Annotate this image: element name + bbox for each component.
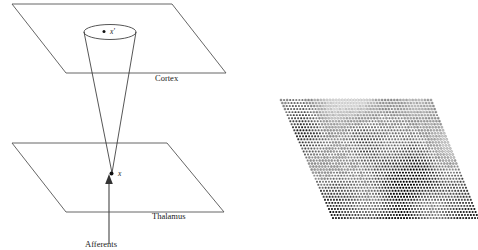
map-dot (308, 114, 310, 116)
map-dot (292, 105, 294, 107)
map-dot (344, 99, 346, 101)
map-dot (371, 147, 373, 149)
map-dot (398, 111, 400, 113)
map-dot (364, 196, 366, 198)
map-dot (407, 169, 409, 171)
map-dot (340, 208, 342, 210)
map-dot (452, 153, 454, 155)
map-dot (332, 126, 334, 128)
map-dot (345, 172, 347, 174)
map-dot (354, 166, 356, 168)
map-dot (414, 166, 416, 168)
map-dot (420, 126, 422, 128)
map-dot (372, 166, 374, 168)
map-dot (425, 138, 427, 140)
map-dot (443, 132, 445, 134)
map-dot (364, 160, 366, 162)
map-dot (369, 193, 371, 195)
map-dot (435, 193, 437, 195)
map-dot (459, 202, 461, 204)
map-dot (464, 193, 466, 195)
map-dot (366, 108, 368, 110)
map-dot (356, 169, 358, 171)
map-dot (398, 184, 400, 186)
map-dot (412, 211, 414, 213)
map-dot (331, 208, 333, 210)
map-dot (377, 163, 379, 165)
map-dot (331, 160, 333, 162)
map-dot (320, 141, 322, 143)
map-dot (346, 117, 348, 119)
map-dot (328, 175, 330, 177)
map-dot (399, 166, 401, 168)
map-dot (395, 111, 397, 113)
map-dot (305, 135, 307, 137)
map-dot (411, 105, 413, 107)
map-dot (437, 117, 439, 119)
map-dot (419, 117, 421, 119)
map-dot (381, 199, 383, 201)
map-dot (328, 126, 330, 128)
map-dot (443, 184, 445, 186)
map-dot (329, 120, 331, 122)
map-dot (414, 193, 416, 195)
map-dot (436, 217, 438, 219)
map-dot (378, 187, 380, 189)
map-dot (426, 172, 428, 174)
map-dot (404, 205, 406, 207)
map-dot (286, 105, 288, 107)
map-dot (316, 132, 318, 134)
map-dot (438, 193, 440, 195)
map-dot (442, 129, 444, 131)
map-dot (446, 147, 448, 149)
map-dot (368, 141, 370, 143)
map-dot (358, 132, 360, 134)
map-dot (344, 147, 346, 149)
map-dot (368, 111, 370, 113)
map-dot (344, 120, 346, 122)
map-dot (338, 157, 340, 159)
map-dot (347, 211, 349, 213)
map-dot (357, 99, 359, 101)
map-dot (463, 205, 465, 207)
map-dot (383, 184, 385, 186)
map-dot (366, 114, 368, 116)
map-dot (335, 157, 337, 159)
map-dot (382, 217, 384, 219)
map-dot (292, 99, 294, 101)
map-dot (434, 153, 436, 155)
map-dot (317, 99, 319, 101)
map-dot (376, 217, 378, 219)
map-dot (429, 105, 431, 107)
map-dot (387, 99, 389, 101)
map-dot (374, 141, 376, 143)
map-dot (460, 205, 462, 207)
map-dot (401, 132, 403, 134)
map-dot (363, 178, 365, 180)
map-dot (404, 117, 406, 119)
map-dot (370, 160, 372, 162)
map-dot (403, 217, 405, 219)
map-dot (359, 126, 361, 128)
map-dot (310, 132, 312, 134)
map-dot (404, 199, 406, 201)
map-dot (447, 141, 449, 143)
map-dot (405, 208, 407, 210)
map-dot (461, 184, 463, 186)
map-dot (437, 178, 439, 180)
map-dot (389, 190, 391, 192)
map-dot (451, 190, 453, 192)
map-dot (422, 169, 424, 171)
map-dot (440, 169, 442, 171)
map-dot (363, 193, 365, 195)
map-dot (391, 144, 393, 146)
map-dot (385, 117, 387, 119)
map-dot (370, 202, 372, 204)
map-dot (422, 184, 424, 186)
map-dot (335, 217, 337, 219)
map-dot (386, 169, 388, 171)
map-dot (457, 211, 459, 213)
map-dot (446, 184, 448, 186)
map-dot (313, 175, 315, 177)
map-dot (353, 184, 355, 186)
